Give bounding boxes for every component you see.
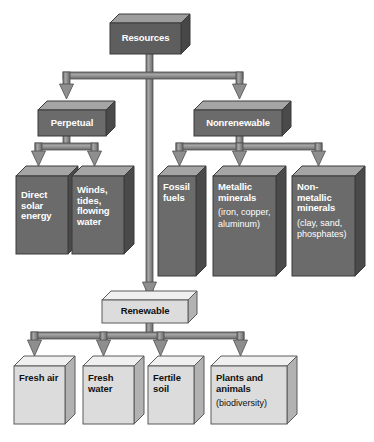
node-winds-tides-flowing-water[interactable]: Winds, tides, flowing water (72, 166, 134, 254)
connector-resources-trunk (143, 53, 157, 298)
node-renewable[interactable]: Renewable (102, 291, 197, 323)
node-label: Renewable (107, 306, 183, 317)
node-direct-solar-energy[interactable]: Direct solar energy (16, 166, 78, 254)
node-perpetual[interactable]: Perpetual (38, 101, 115, 136)
node-label: Fossil fuels (163, 182, 191, 203)
node-label: Fertile soil (153, 373, 189, 394)
node-fertile-soil[interactable]: Fertile soil (148, 356, 204, 424)
node-nonrenewable[interactable]: Nonrenewable (194, 101, 291, 136)
node-label: Direct solar energy (21, 190, 63, 222)
node-non-metallic-minerals[interactable]: Non-metallic minerals (clay, sand, phosp… (292, 166, 365, 276)
node-note: (biodiversity) (216, 398, 282, 409)
node-label: Resources (115, 33, 176, 44)
node-label: Winds, tides, flowing water (77, 185, 119, 228)
resources-flow-chart: Resources Perpetual Nonrenewable (0, 0, 374, 442)
node-metallic-minerals[interactable]: Metallic minerals (iron, copper, aluminu… (213, 166, 286, 276)
connector-renewable-children (28, 320, 248, 356)
node-label: Perpetual (43, 118, 101, 129)
node-label: Nonrenewable (199, 118, 277, 129)
node-resources[interactable]: Resources (110, 14, 190, 54)
node-label: Non-metallic minerals (297, 182, 350, 214)
node-note: (iron, copper, aluminum) (218, 207, 271, 230)
node-label: Metallic minerals (218, 182, 271, 203)
node-label: Fresh water (88, 373, 129, 394)
node-label: Plants and animals (216, 373, 282, 394)
node-fresh-water[interactable]: Fresh water (83, 356, 144, 424)
node-plants-and-animals[interactable]: Plants and animals (biodiversity) (211, 356, 297, 424)
node-fresh-air[interactable]: Fresh air (14, 356, 75, 424)
node-label: Fresh air (19, 373, 60, 384)
node-note: (clay, sand, phosphates) (297, 218, 350, 241)
node-fossil-fuels[interactable]: Fossil fuels (158, 166, 206, 276)
